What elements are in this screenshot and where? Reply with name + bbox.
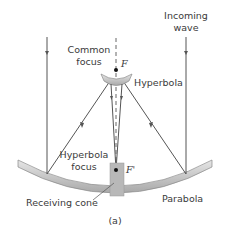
panel-label: (a) xyxy=(108,215,121,226)
hyperbola-mirror xyxy=(101,74,132,86)
reflected-ray-right xyxy=(123,81,186,174)
parabola-label: Parabola xyxy=(162,193,203,204)
cassegrain-diagram: Incoming wave Common focus F Hyperbola H… xyxy=(0,0,228,240)
hyperbola-focus-label-1: Hyperbola xyxy=(60,149,109,160)
incoming-wave-label-1: Incoming xyxy=(164,10,208,21)
receiving-cone xyxy=(110,163,124,196)
receiving-cone-label: Receiving cone xyxy=(26,197,98,208)
arrow-icon xyxy=(110,96,113,100)
hyperbola-focus-label-2: focus xyxy=(71,161,96,172)
hyperbola-label: Hyperbola xyxy=(134,77,183,88)
incoming-wave-label-2: wave xyxy=(173,22,198,33)
arrow-icon xyxy=(45,51,49,55)
common-focus-label-1: Common xyxy=(68,44,111,55)
focus-f-prime-dot xyxy=(114,168,118,172)
focus-f-label: F xyxy=(120,58,128,69)
common-focus-label-2: focus xyxy=(76,56,101,67)
focus-f-prime-label: F' xyxy=(125,164,135,175)
focus-f-dot xyxy=(114,68,118,72)
arrow-icon xyxy=(184,51,188,55)
